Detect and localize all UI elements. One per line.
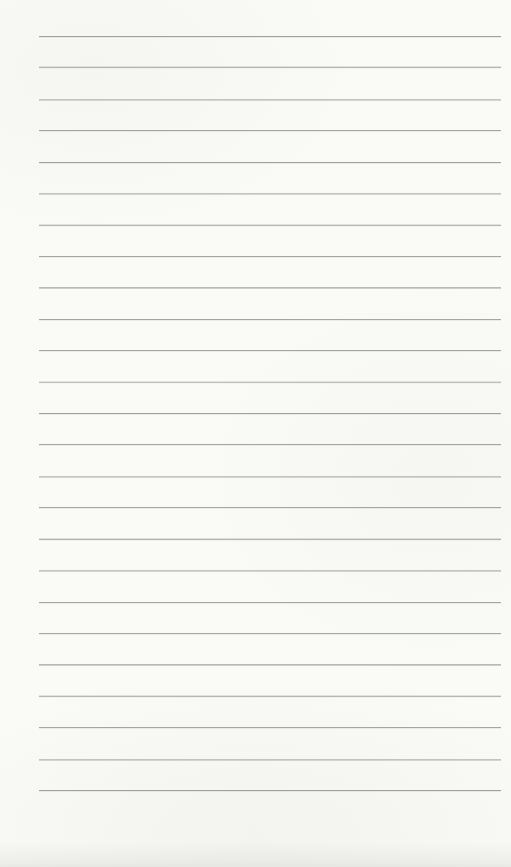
ruled-line [39,193,501,194]
ruled-line [39,319,501,320]
ruled-line [39,759,501,760]
ruled-line [39,162,501,163]
ruled-line [39,727,501,728]
ruled-line [39,350,501,351]
ruled-line [39,381,501,382]
ruled-line [39,696,501,697]
ruled-line [39,36,501,37]
ruled-line [39,633,501,634]
ruled-line [39,67,501,68]
ruled-line [39,790,501,791]
notebook-paper [0,0,511,867]
ruled-line [39,413,501,414]
ruled-line [39,288,501,289]
ruled-line [39,602,501,603]
ruled-line [39,130,501,131]
ruled-line [39,507,501,508]
ruled-line [39,99,501,100]
ruled-line [39,570,501,571]
ruled-line [39,538,501,539]
ruled-line [39,444,501,445]
ruled-line [39,476,501,477]
ruled-line [39,256,501,257]
ruled-line [39,224,501,225]
ruled-line [39,665,501,666]
